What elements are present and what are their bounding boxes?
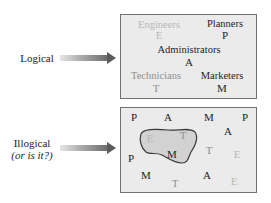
scatter-letter: A — [203, 170, 211, 181]
scatter-letter: P — [131, 112, 137, 123]
scatter-letter: P — [128, 153, 134, 164]
scatter-letter: P — [242, 112, 248, 123]
cluster-blob-shape — [0, 0, 271, 203]
scatter-letter: E — [234, 149, 241, 160]
scatter-letter: A — [224, 126, 232, 137]
scatter-letter: T — [172, 178, 179, 189]
scatter-letter: E — [231, 176, 238, 187]
scatter-letter: M — [141, 170, 151, 181]
blob-letter: E — [147, 133, 154, 144]
scatter-letter: M — [204, 112, 214, 123]
blob-letter: T — [180, 130, 187, 141]
blob-letter: M — [167, 149, 177, 160]
scatter-letter: T — [206, 145, 213, 156]
scatter-letter: A — [164, 112, 172, 123]
